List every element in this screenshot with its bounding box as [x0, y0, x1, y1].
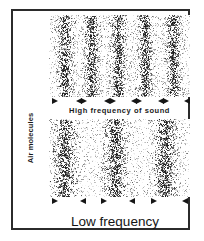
low-frequency-panel: [49, 119, 190, 197]
wavelength-arrow-left: [129, 198, 135, 204]
low-frequency-wavelength-arrows: [49, 197, 190, 206]
high-frequency-molecule-field: [49, 15, 190, 97]
wavelength-arrow-right: [52, 98, 58, 104]
figure-frame: Air molecules High frequency of sound Lo…: [11, 9, 190, 230]
wavelength-arrow-left: [80, 198, 86, 204]
high-frequency-caption: High frequency of sound: [49, 106, 190, 115]
wavelength-arrow-right: [81, 98, 87, 104]
high-frequency-panel: [49, 15, 190, 97]
low-frequency-caption: Low frequency: [35, 214, 195, 229]
wavelength-arrow-right: [110, 98, 116, 104]
wavelength-arrow-left: [182, 198, 188, 204]
wavelength-arrow-left: [184, 98, 190, 104]
low-frequency-molecule-field: [49, 119, 190, 197]
wavelength-arrow-right: [163, 98, 169, 104]
wavelength-arrow-right: [101, 198, 107, 204]
y-axis-label-air-molecules: Air molecules: [24, 98, 38, 178]
high-frequency-wavelength-arrows: [49, 97, 190, 106]
wavelength-arrow-right: [52, 198, 58, 204]
wavelength-arrow-right: [151, 198, 157, 204]
wavelength-arrow-right: [136, 98, 142, 104]
sound-frequency-diagram: Air molecules High frequency of sound Lo…: [0, 0, 204, 241]
